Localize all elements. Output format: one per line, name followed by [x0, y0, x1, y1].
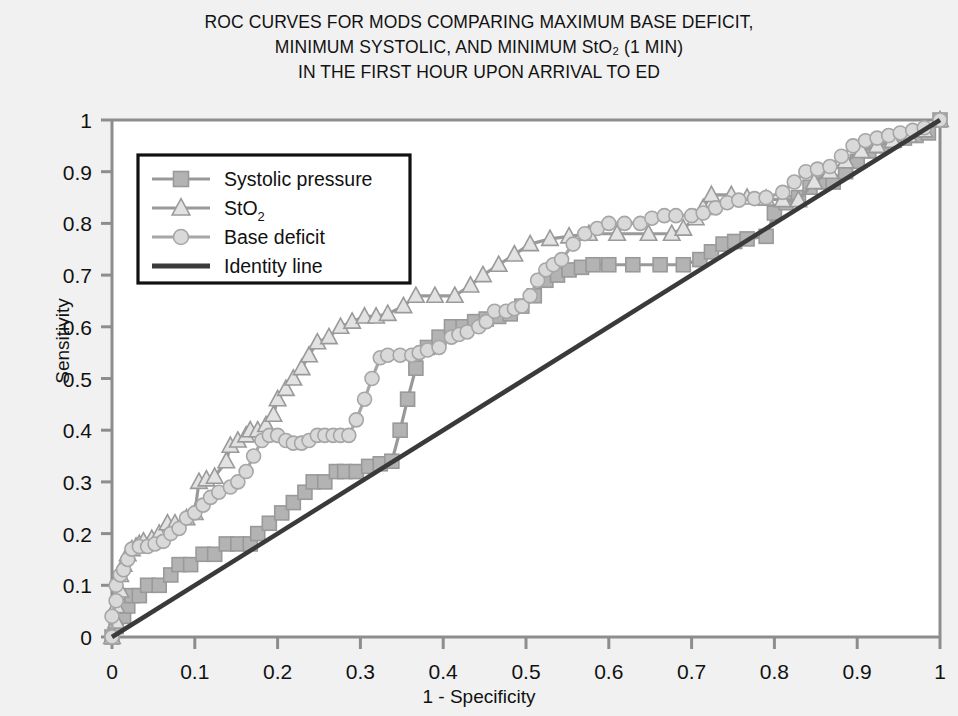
data-marker-circle	[358, 392, 372, 406]
data-marker-circle	[618, 216, 632, 230]
data-marker-circle	[759, 191, 773, 205]
data-marker-square	[401, 392, 415, 406]
data-marker-circle	[349, 413, 363, 427]
legend-label: Base deficit	[224, 226, 325, 248]
x-tick-label: 0.1	[180, 660, 209, 683]
data-marker-circle	[342, 428, 356, 442]
data-marker-square	[393, 423, 407, 437]
y-tick-label: 0.8	[63, 212, 92, 235]
y-tick-label: 0.1	[63, 574, 92, 597]
x-tick-label: 0.7	[677, 660, 706, 683]
data-marker-circle	[555, 253, 569, 267]
roc-plot-svg: 00.10.20.30.40.50.60.70.80.9100.10.20.30…	[0, 0, 958, 716]
legend-label: Identity line	[224, 255, 323, 277]
data-marker-circle	[365, 372, 379, 386]
legend-label-subscript: 2	[258, 209, 265, 224]
x-tick-label: 0.8	[760, 660, 789, 683]
data-marker-circle	[109, 594, 123, 608]
data-marker-square	[174, 172, 189, 187]
data-marker-circle	[669, 209, 683, 223]
x-axis-label: 1 - Specificity	[0, 686, 958, 708]
y-tick-label: 1	[80, 109, 92, 132]
data-marker-square	[602, 258, 616, 272]
data-marker-circle	[239, 465, 253, 479]
data-marker-circle	[602, 216, 616, 230]
y-tick-label: 0.9	[63, 161, 92, 184]
data-marker-circle	[893, 126, 907, 140]
data-marker-circle	[776, 185, 790, 199]
data-marker-circle	[732, 193, 746, 207]
data-marker-circle	[174, 230, 189, 245]
data-marker-circle	[523, 289, 537, 303]
data-marker-square	[653, 258, 667, 272]
y-tick-label: 0.3	[63, 471, 92, 494]
data-marker-circle	[787, 175, 801, 189]
data-marker-circle	[566, 237, 580, 251]
data-marker-circle	[645, 211, 659, 225]
x-tick-label: 0.4	[429, 660, 459, 683]
data-marker-circle	[834, 149, 848, 163]
data-marker-square	[409, 361, 423, 375]
data-marker-circle	[823, 160, 837, 174]
data-marker-square	[586, 258, 600, 272]
data-marker-circle	[105, 609, 119, 623]
y-tick-label: 0.4	[63, 419, 93, 442]
y-axis-label: Sensitivity	[52, 271, 74, 411]
x-tick-label: 0.5	[511, 660, 540, 683]
roc-chart-figure: ROC CURVES FOR MODS COMPARING MAXIMUM BA…	[0, 0, 958, 716]
x-tick-label: 1	[934, 660, 946, 683]
x-tick-label: 0.2	[263, 660, 292, 683]
data-marker-circle	[810, 162, 824, 176]
legend-label: Systolic pressure	[224, 168, 372, 190]
x-tick-label: 0.9	[843, 660, 872, 683]
data-marker-circle	[432, 340, 446, 354]
x-tick-label: 0	[106, 660, 118, 683]
x-tick-label: 0.6	[594, 660, 623, 683]
data-marker-square	[626, 258, 640, 272]
data-marker-square	[676, 258, 690, 272]
y-tick-label: 0.2	[63, 523, 92, 546]
data-marker-circle	[247, 449, 261, 463]
x-tick-label: 0.3	[346, 660, 375, 683]
chart-legend: Systolic pressureStO2Base deficitIdentit…	[138, 155, 410, 283]
y-tick-label: 0	[80, 626, 92, 649]
